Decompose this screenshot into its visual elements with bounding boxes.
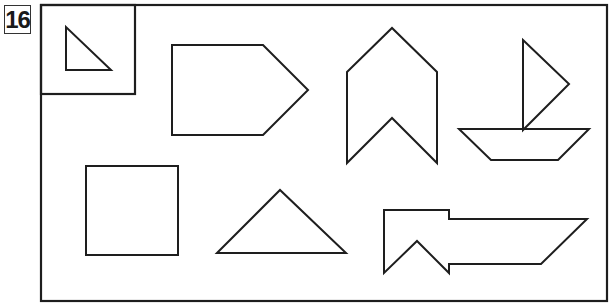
shape-pentagon-arrow xyxy=(172,45,308,135)
shape-sailboat-hull-trapezoid xyxy=(459,129,589,160)
shapes-layer xyxy=(66,27,589,273)
example-box xyxy=(41,5,135,94)
shape-flag-arrow-notched xyxy=(384,210,587,273)
shape-chevron-up xyxy=(347,28,437,163)
puzzle-canvas xyxy=(0,0,612,306)
shape-triangle-isosceles xyxy=(217,190,346,253)
shape-example-small-right-triangle xyxy=(66,27,111,70)
shape-square xyxy=(86,166,178,255)
shape-sailboat-sail-triangle xyxy=(523,40,569,130)
